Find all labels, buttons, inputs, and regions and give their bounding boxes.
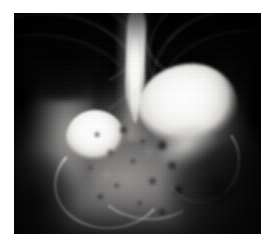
gas-pocket-lower-right xyxy=(157,141,261,234)
radiograph-figure xyxy=(0,0,276,249)
radiograph-plate xyxy=(14,13,261,234)
gas-pocket-lower-left xyxy=(14,154,78,234)
